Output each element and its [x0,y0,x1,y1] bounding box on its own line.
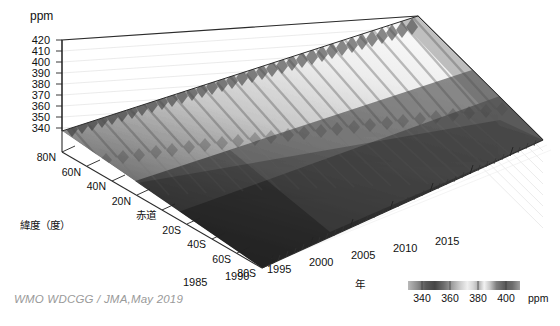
lat-tick-label-20s: 20S [162,224,181,236]
year-tick-label-2015: 2015 [435,235,459,247]
colorbar-tick-label-340: 340 [413,292,431,304]
lat-tick-label-80n: 80N [37,151,56,163]
colorbar-tick-label-400: 400 [497,292,515,304]
lat-tick-label-20n: 20N [112,195,131,207]
year-axis-title: 年 [355,278,365,290]
year-tick-label-1990: 1990 [225,270,249,282]
z-axis: ppm 420 410 400 390 380 370 360 350 340 [30,9,62,152]
co2-surface-3d-chart: ppm 420 410 400 390 380 370 360 350 340 [0,0,560,326]
source-credit: WMO WDCGG / JMA,May 2019 [14,293,183,305]
lat-tick-label-equator: 赤道 [136,209,157,221]
lat-tick-label-60s: 60S [212,253,231,265]
year-tick-label-2010: 2010 [393,242,417,254]
colorbar-gradient [408,281,520,290]
z-axis-unit-label: ppm [30,9,53,23]
lat-tick-label-40n: 40N [87,180,106,192]
z-tick-label-340: 340 [32,122,50,134]
latitude-axis-title: 緯度（度） [20,219,70,231]
year-tick-label-1985: 1985 [183,276,207,288]
year-tick-label-1995: 1995 [267,263,291,275]
lat-tick-label-60n: 60N [62,166,81,178]
colorbar-tick-label-360: 360 [441,292,459,304]
colorbar-tick-label-380: 380 [469,292,487,304]
lat-tick-label-40s: 40S [187,238,206,250]
z-axis-tickmarks [56,40,62,128]
colorbar-legend[interactable]: 340 360 380 400 ppm [408,281,549,304]
figure-root: ppm 420 410 400 390 380 370 360 350 340 [0,0,560,326]
year-tick-label-2005: 2005 [351,249,375,261]
colorbar-unit-label: ppm [528,292,549,304]
year-tick-label-2000: 2000 [309,256,333,268]
co2-surface [62,12,543,268]
